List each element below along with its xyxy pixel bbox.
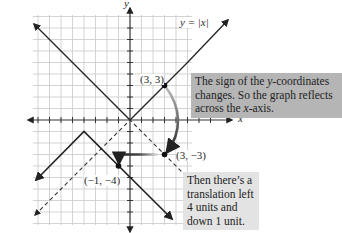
y-axis-label: y: [124, 0, 129, 9]
point-label-3-neg3: (3, −3): [176, 150, 206, 161]
point-label-3-3: (3, 3): [140, 74, 164, 85]
point-3-neg3: [162, 152, 168, 158]
reflection-callout: The sign of the y-coordinates changes. S…: [191, 73, 342, 118]
point-neg1-neg4: [116, 163, 122, 169]
translation-arrow: [119, 155, 158, 164]
translation-callout: Then there’s a translation left 4 units …: [183, 172, 259, 230]
graph-abs-x: [34, 24, 187, 120]
equation-label: y = |x|: [178, 17, 211, 28]
point-label-neg1-neg4: (−1, −4): [84, 175, 120, 186]
